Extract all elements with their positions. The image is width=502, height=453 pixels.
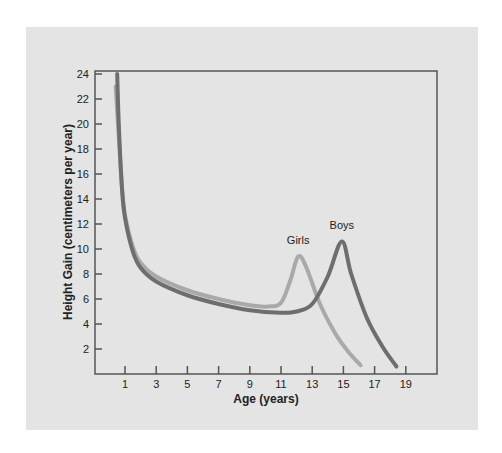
x-tick-label: 3: [153, 378, 159, 390]
x-tick-label: 13: [306, 378, 318, 390]
x-tick-label: 7: [216, 378, 222, 390]
x-tick-label: 17: [368, 378, 380, 390]
y-tick-label: 6: [83, 293, 89, 305]
line-boys: [117, 74, 396, 367]
y-tick-label: 18: [77, 143, 89, 155]
y-axis: 24681012141618202224: [77, 68, 102, 355]
y-tick-label: 16: [77, 168, 89, 180]
y-axis-title: Height Gain (centimeters per year): [61, 124, 75, 320]
y-tick-label: 8: [83, 268, 89, 280]
y-tick-label: 12: [77, 218, 89, 230]
y-tick-label: 22: [77, 93, 89, 105]
y-tick-label: 24: [77, 68, 89, 80]
y-tick-label: 2: [83, 343, 89, 355]
x-tick-label: 9: [247, 378, 253, 390]
y-tick-label: 14: [77, 193, 89, 205]
height-gain-chart: 24681012141618202224 135791113151719 Gir…: [0, 0, 502, 453]
y-tick-label: 20: [77, 118, 89, 130]
x-axis-title: Age (years): [233, 392, 298, 406]
label-boys: Boys: [330, 219, 355, 231]
x-tick-label: 11: [275, 378, 286, 390]
label-girls: Girls: [287, 234, 310, 246]
x-axis: 135791113151719: [122, 366, 412, 390]
y-tick-label: 10: [77, 243, 89, 255]
x-tick-label: 19: [400, 378, 412, 390]
x-tick-label: 15: [337, 378, 349, 390]
plot-frame: [95, 71, 437, 374]
x-tick-label: 1: [122, 378, 128, 390]
x-tick-label: 5: [184, 378, 190, 390]
line-girls: [116, 87, 361, 366]
y-tick-label: 4: [83, 318, 89, 330]
series-lines: [116, 74, 397, 367]
